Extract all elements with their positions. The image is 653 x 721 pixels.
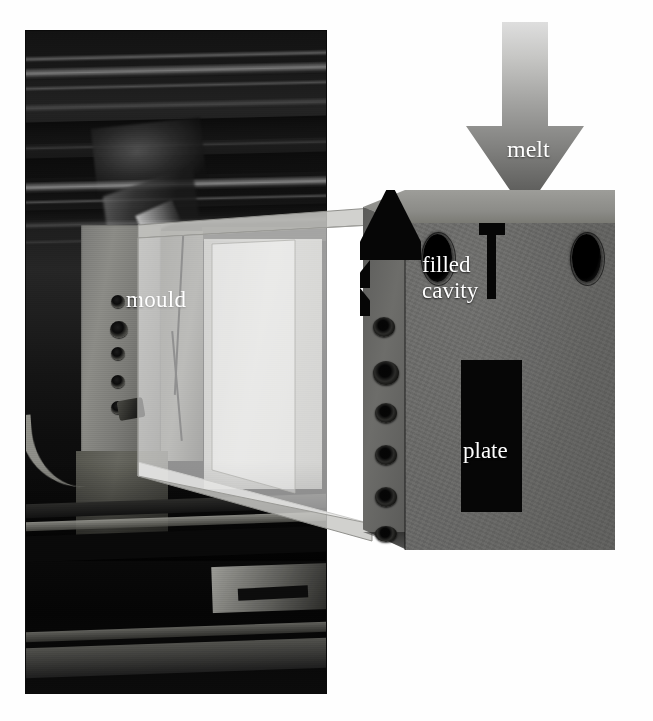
plate-cavity	[461, 360, 522, 512]
side-fitting	[375, 526, 397, 542]
label-melt: melt	[507, 136, 550, 163]
label-filled-cavity: filled cavity	[422, 252, 512, 305]
photo-content	[26, 31, 326, 693]
mould-block-3d: filled cavity plate	[360, 190, 653, 565]
corner-bore-right	[572, 234, 601, 282]
label-filled-cavity-line1: filled	[422, 252, 512, 278]
side-fitting	[375, 445, 397, 465]
label-plate: plate	[463, 438, 508, 464]
mould-bolt	[110, 321, 128, 338]
side-fitting	[373, 361, 399, 385]
side-fitting	[375, 403, 397, 423]
side-fitting	[375, 487, 397, 507]
mould-open-area	[204, 239, 322, 489]
block-front-left-edge	[404, 223, 406, 550]
melt-arrow-shape	[466, 22, 584, 212]
side-fitting	[373, 317, 395, 337]
label-filled-cavity-line2: cavity	[422, 278, 512, 304]
injection-moulding-machine-photo: mould	[25, 30, 327, 694]
mould-bolt	[111, 375, 125, 388]
figure-root: mould melt	[0, 0, 653, 721]
sprue-bushing	[479, 223, 505, 235]
label-mould: mould	[126, 287, 186, 313]
mould-bolt	[111, 295, 125, 308]
mould-bolt	[111, 347, 125, 360]
